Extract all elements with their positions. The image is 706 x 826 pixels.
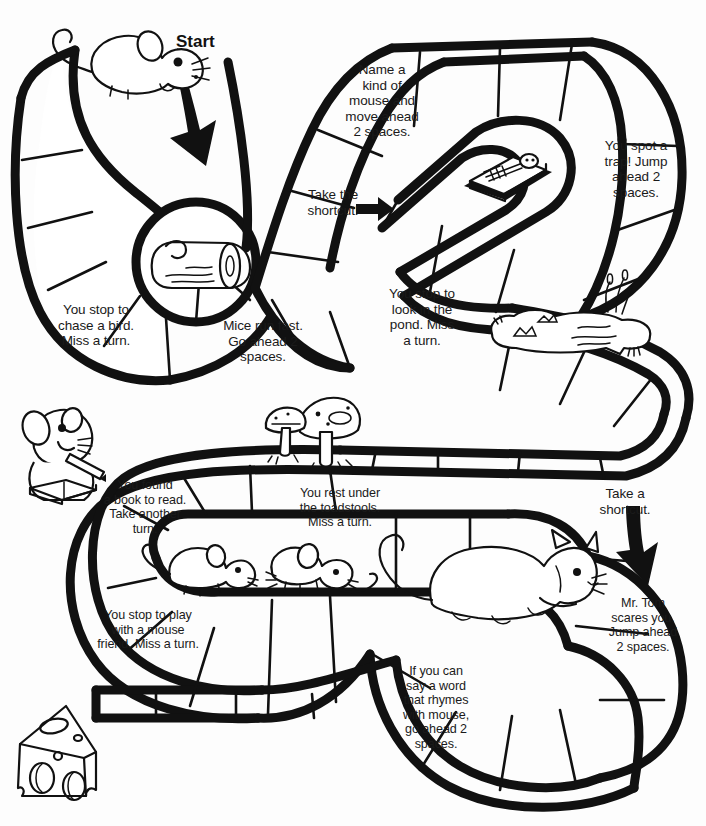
space-you-stop-to-look-in-the-pond: You stop to look in the pond. Miss a tur…	[374, 286, 470, 348]
space-if-you-can-say-a-word-that-rhymes: If you can say a word that rhymes with m…	[392, 664, 480, 752]
cat-icon	[380, 530, 607, 624]
space-take-the-shortcut: Take the shortcut!	[292, 187, 374, 218]
space-you-stop-to-play-with-a-mouse-friend: You stop to play with a mouse friend. Mi…	[72, 608, 224, 652]
toadstools-icon	[266, 398, 360, 470]
space-mice-run-fast: Mice run fast. Go ahead 2 spaces.	[208, 318, 318, 365]
space-you-rest-under-the-toadstools: You rest under the toadstools. Miss a tu…	[282, 486, 398, 530]
space-you-stop-to-chase-a-bird: You stop to chase a bird. Miss a turn.	[40, 302, 152, 349]
space-take-a-shortcut: Take a shortcut.	[586, 486, 664, 517]
start-label: Start	[176, 32, 215, 52]
cheese-icon	[18, 706, 96, 800]
space-you-found-a-book-to-read: You found a book to read. Take another t…	[90, 478, 200, 536]
mousetrap-icon	[464, 154, 552, 201]
space-name-a-kind-of-mouse: Name a kind of mouse and move ahead 2 sp…	[326, 62, 438, 140]
board-game-canvas: Start Name a kind of mouse and move ahea…	[0, 0, 706, 826]
space-you-spot-a-trap: You spot a trap! Jump ahead 2 spaces.	[584, 138, 688, 200]
log-icon	[152, 241, 250, 288]
space-mr-tom-scares-you: Mr. Tom scares you. Jump ahead 2 spaces.	[594, 596, 692, 654]
